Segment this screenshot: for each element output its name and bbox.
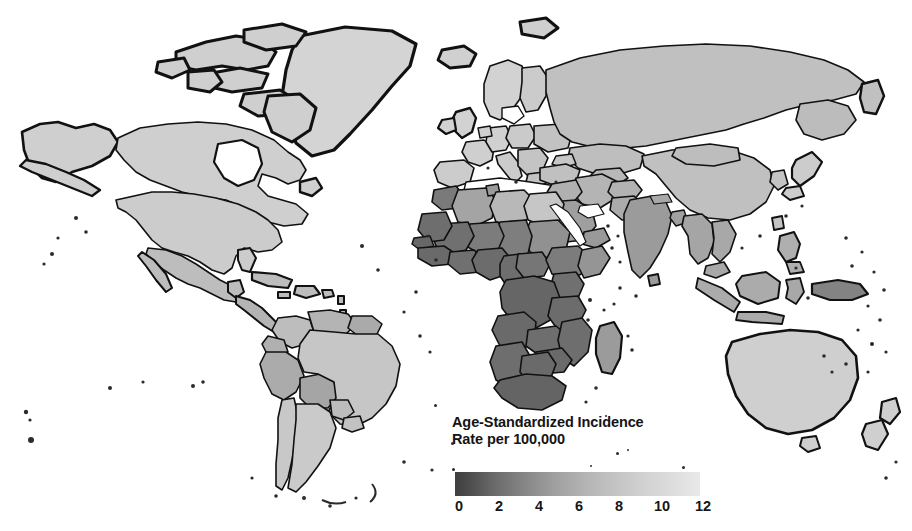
scan-speck <box>627 449 629 451</box>
map-legend: Age-Standardized Incidence Rate per 100,… <box>452 414 712 526</box>
scan-speck <box>434 404 437 407</box>
world-map-figure: Age-Standardized Incidence Rate per 100,… <box>0 0 912 531</box>
region-car <box>516 252 550 278</box>
scan-speck <box>452 468 455 471</box>
region-hispaniola <box>294 286 320 298</box>
legend-tick-10: 10 <box>654 498 670 514</box>
region-puerto-rico <box>322 290 334 298</box>
legend-colorbar <box>455 472 700 496</box>
legend-title: Age-Standardized Incidence Rate per 100,… <box>452 414 712 448</box>
legend-tick-8: 8 <box>615 498 623 514</box>
legend-tick-labels: 0 2 4 6 8 10 12 <box>452 498 704 520</box>
legend-tick-0: 0 <box>455 498 463 514</box>
scan-speck <box>682 466 685 469</box>
scan-speck <box>616 452 619 455</box>
legend-tick-6: 6 <box>575 498 583 514</box>
scan-speck <box>605 415 607 417</box>
region-taiwan <box>772 216 784 230</box>
region-new-guinea <box>812 280 868 300</box>
region-sri-lanka <box>648 274 660 286</box>
region-lesser-antilles-1 <box>338 296 344 304</box>
region-benelux <box>478 126 492 138</box>
scan-speck <box>590 465 592 467</box>
region-uruguay <box>342 416 364 432</box>
region-jamaica <box>278 292 290 298</box>
legend-tick-2: 2 <box>495 498 503 514</box>
region-nepal <box>650 194 672 204</box>
region-mongolia <box>672 144 740 166</box>
scan-speck <box>451 442 454 445</box>
region-ellesmere <box>244 24 306 50</box>
region-iceland <box>438 46 476 68</box>
legend-tick-4: 4 <box>535 498 543 514</box>
scan-speck <box>519 421 521 423</box>
legend-colorbar-wrapper <box>455 472 700 496</box>
legend-tick-12: 12 <box>695 498 711 514</box>
